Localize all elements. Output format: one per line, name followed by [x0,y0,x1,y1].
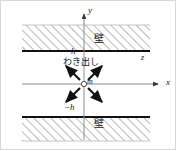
point-m-label: m [87,78,93,86]
z-axis-label: z [141,54,144,62]
x-axis-label: x [166,78,170,87]
bottom-wall-region [22,117,150,141]
y-axis-label: y [88,6,92,15]
upper-boundary-label: h [71,47,76,56]
top-wall-region [22,25,150,51]
source-label: わき出し [63,58,99,67]
lower-boundary-label: −h [64,103,75,112]
diagram-canvas [0,0,177,151]
source-between-walls-diagram: y x z h −h m わき出し 壁 壁 [0,0,177,151]
source-point [81,81,86,86]
bottom-wall-label: 壁 [94,119,104,129]
top-wall-label: 壁 [94,34,104,44]
